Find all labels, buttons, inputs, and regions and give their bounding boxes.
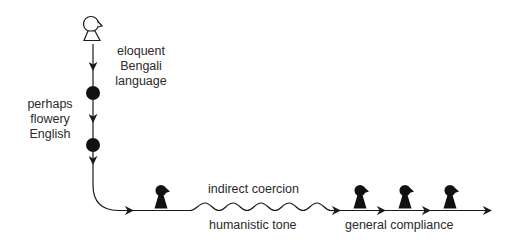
label-indirect-coercion: indirect coercion [208, 182, 299, 197]
label-line: Bengali [112, 59, 170, 74]
dark-figure-icon [399, 185, 415, 209]
label-eloquent-bengali-language: eloquent Bengali language [112, 44, 170, 89]
label-line: language [112, 74, 170, 89]
label-perhaps-flowery-english: perhaps flowery English [22, 97, 78, 142]
label-line: English [22, 127, 78, 142]
dark-figure-icon [155, 185, 171, 209]
speaker-outline-figure-icon [84, 17, 103, 41]
label-line: eloquent [112, 44, 170, 59]
horizontal-path [133, 203, 491, 211]
label-general-compliance: general compliance [345, 218, 453, 233]
dark-figure-icon [444, 185, 460, 209]
label-line: perhaps [22, 97, 78, 112]
filled-dot-icon [86, 138, 100, 152]
label-humanistic-tone: humanistic tone [209, 218, 297, 233]
wavy-segment [190, 203, 331, 211]
label-line: flowery [22, 112, 78, 127]
dark-figure-icon [354, 185, 370, 209]
filled-dot-icon [86, 86, 100, 100]
